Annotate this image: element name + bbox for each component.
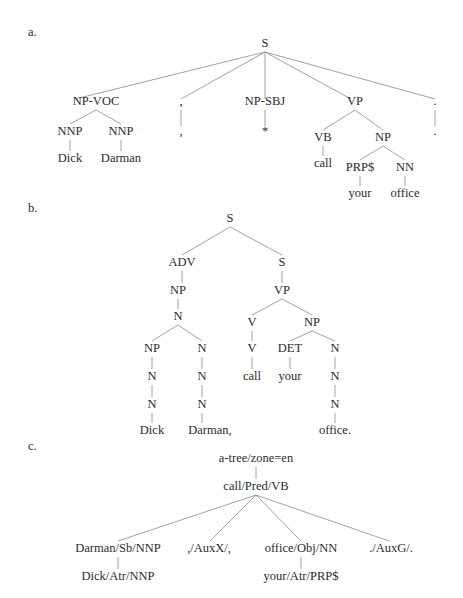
- tree-node-vb: VB: [314, 130, 331, 144]
- tree-edge: [290, 331, 312, 341]
- tree-node-comma1: ,: [179, 94, 182, 108]
- tree-node-s2: S: [279, 255, 286, 269]
- tree-panel-c: c.a-tree/zone=encall/Pred/VBDarman/Sb/NN…: [28, 439, 413, 583]
- panel-label: b.: [28, 201, 37, 215]
- tree-edge: [282, 299, 312, 315]
- tree-node-root: a-tree/zone=en: [219, 451, 294, 465]
- tree-node-v2: V: [247, 341, 256, 355]
- panel-label: c.: [28, 439, 37, 453]
- tree-node-n8: N: [330, 369, 339, 383]
- tree-edge: [265, 52, 435, 99]
- tree-node-n4: N: [197, 369, 206, 383]
- tree-node-office: office.: [319, 423, 351, 437]
- tree-edge: [210, 495, 256, 541]
- tree-edge: [70, 110, 96, 124]
- tree-node-comma2: ,: [179, 124, 182, 138]
- tree-node-det: DET: [278, 341, 303, 355]
- tree-node-dick: Dick/Atr/NNP: [82, 569, 155, 583]
- tree-node-per1: .: [433, 94, 436, 108]
- tree-node-npvoc: NP-VOC: [73, 94, 120, 108]
- tree-edge: [152, 325, 178, 341]
- tree-node-n2: N: [197, 341, 206, 355]
- tree-node-n3: N: [147, 369, 156, 383]
- tree-node-office: office/Obj/NN: [265, 541, 338, 555]
- tree-edge: [181, 52, 265, 99]
- tree-edge: [360, 146, 383, 160]
- tree-edge: [355, 110, 383, 130]
- tree-node-np1: NP: [170, 283, 186, 297]
- tree-edge: [96, 110, 121, 124]
- tree-node-dick: Dick: [58, 151, 83, 165]
- tree-edge: [323, 110, 355, 130]
- tree-node-per2: .: [433, 124, 436, 138]
- tree-node-n6: N: [197, 397, 206, 411]
- tree-node-office: office: [391, 186, 420, 200]
- tree-edge: [265, 52, 351, 99]
- tree-node-n1: N: [173, 309, 182, 323]
- tree-node-v1: V: [247, 315, 256, 329]
- tree-node-dick: Dick: [140, 423, 165, 437]
- tree-panel-b: b.SADVSNPVPNNPNNNNNDickDarman,VNPVcallDE…: [28, 201, 351, 437]
- tree-node-S: S: [262, 36, 269, 50]
- tree-node-vp: VP: [274, 283, 290, 297]
- tree-panel-a: a.SNP-VOCNNPNNPDickDarman,,NP-SBJ*VPVBNP…: [28, 25, 437, 200]
- tree-edge: [118, 495, 256, 541]
- tree-node-your: your: [279, 369, 303, 383]
- tree-node-nnp1: NNP: [57, 124, 82, 138]
- tree-node-your: your/Atr/PRP$: [263, 569, 338, 583]
- tree-node-adv: ADV: [168, 255, 195, 269]
- syntax-tree-diagram: a.SNP-VOCNNPNNPDickDarman,,NP-SBJ*VPVBNP…: [0, 0, 463, 598]
- tree-edge: [75, 52, 265, 99]
- tree-edge: [230, 227, 282, 255]
- tree-node-your: your: [349, 186, 373, 200]
- tree-node-darman: Darman/Sb/NNP: [75, 541, 160, 555]
- tree-node-call: call: [243, 369, 262, 383]
- tree-edge: [182, 227, 230, 255]
- tree-node-call: call: [314, 156, 333, 170]
- tree-edge: [252, 299, 282, 315]
- tree-node-npsbj: NP-SBJ: [245, 94, 285, 108]
- tree-edge: [312, 331, 335, 341]
- tree-node-star: *: [262, 124, 268, 138]
- tree-edge: [383, 146, 405, 160]
- tree-edge: [256, 495, 389, 541]
- tree-node-n7: N: [330, 341, 339, 355]
- tree-node-comma: ,/AuxX/,: [187, 541, 231, 555]
- tree-node-np2: NP: [144, 341, 160, 355]
- tree-node-nn: NN: [396, 160, 414, 174]
- tree-node-np: NP: [375, 130, 391, 144]
- tree-node-darman: Darman: [101, 151, 142, 165]
- tree-node-prp: PRP$: [346, 160, 375, 174]
- tree-node-nnp2: NNP: [108, 124, 133, 138]
- tree-node-darman: Darman,: [188, 423, 231, 437]
- tree-node-period: ./AuxG/.: [369, 541, 413, 555]
- tree-node-n9: N: [330, 397, 339, 411]
- panel-label: a.: [28, 25, 37, 39]
- tree-edge: [256, 495, 301, 541]
- tree-edge: [178, 325, 202, 341]
- tree-node-S: S: [227, 211, 234, 225]
- tree-node-np3: NP: [304, 315, 320, 329]
- tree-node-n5: N: [147, 397, 156, 411]
- tree-node-call: call/Pred/VB: [223, 479, 288, 493]
- tree-node-vp: VP: [347, 94, 363, 108]
